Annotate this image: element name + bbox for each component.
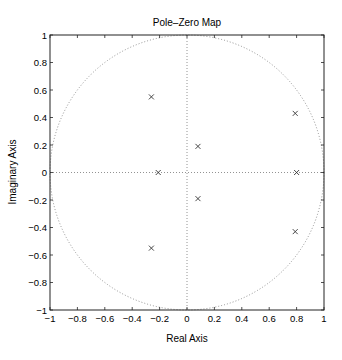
- x-tick-label: 0.4: [235, 313, 248, 324]
- plot-area: −1−0.8−0.6−0.4−0.200.20.40.60.81−1−0.8−0…: [28, 30, 326, 325]
- y-tick-label: 1: [42, 30, 47, 41]
- x-tick-label: 0.2: [208, 313, 221, 324]
- pole-marker: [195, 144, 200, 149]
- y-tick-label: −0.4: [28, 222, 47, 233]
- y-tick-label: 0.4: [34, 112, 47, 123]
- y-tick-label: 0.6: [34, 85, 47, 96]
- x-axis-label: Real Axis: [166, 333, 208, 344]
- pole-marker: [156, 170, 161, 175]
- x-tick-label: −0.2: [150, 313, 169, 324]
- y-tick-label: 0.8: [34, 57, 47, 68]
- pole-marker: [293, 111, 298, 116]
- x-tick-label: 0.8: [290, 313, 303, 324]
- x-tick-label: −0.4: [123, 313, 142, 324]
- pole-zero-chart: Pole–Zero Map −1−0.8−0.6−0.4−0.200.20.40…: [0, 0, 342, 360]
- pole-marker: [293, 229, 298, 234]
- pole-marker: [195, 196, 200, 201]
- pole-marker: [294, 170, 299, 175]
- y-axis-label: Imaginary Axis: [7, 139, 18, 204]
- y-tick-label: −0.2: [28, 195, 47, 206]
- y-tick-label: −0.8: [28, 277, 47, 288]
- pole-marker: [149, 246, 154, 251]
- plot-frame: [50, 35, 324, 310]
- x-tick-label: 0: [184, 313, 189, 324]
- x-tick-label: 1: [321, 313, 326, 324]
- x-tick-label: −0.6: [95, 313, 114, 324]
- chart-title: Pole–Zero Map: [153, 17, 222, 28]
- x-tick-label: 0.6: [263, 313, 276, 324]
- unit-circle: [50, 35, 324, 310]
- y-tick-label: 0: [42, 167, 47, 178]
- y-tick-label: −0.6: [28, 250, 47, 261]
- y-tick-label: −1: [36, 305, 47, 316]
- pole-marker: [149, 94, 154, 99]
- x-tick-label: −0.8: [68, 313, 87, 324]
- y-tick-label: 0.2: [34, 140, 47, 151]
